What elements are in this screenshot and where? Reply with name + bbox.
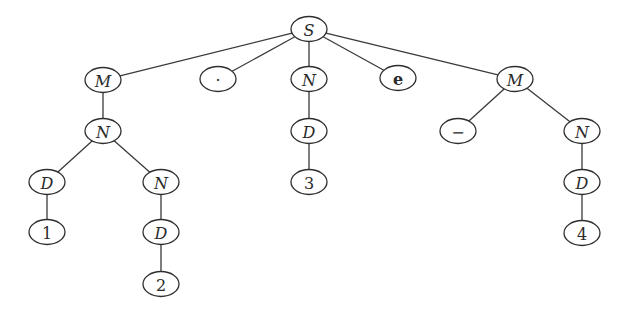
node-label: M <box>94 72 112 91</box>
tree-node-two: 2 <box>143 272 179 297</box>
node-label: N <box>153 174 169 193</box>
tree-node-N2: N <box>85 119 121 144</box>
node-label: D <box>154 224 168 243</box>
node-label: · <box>215 71 220 90</box>
tree-node-S: S <box>291 17 327 42</box>
tree-node-N4: N <box>143 170 179 195</box>
nodes-layer: SM·NeMND−NDN3D1D42 <box>29 17 600 297</box>
node-label: N <box>574 123 590 142</box>
node-label: e <box>393 70 403 89</box>
tree-node-N1: N <box>291 67 327 92</box>
tree-node-D3: D <box>564 170 600 195</box>
tree-node-D4: D <box>143 220 179 245</box>
node-label: D <box>575 174 589 193</box>
edge-S-e <box>323 37 384 70</box>
tree-node-M1: M <box>85 68 121 93</box>
node-label: 3 <box>304 174 314 193</box>
tree-node-N3: N <box>564 119 600 144</box>
tree-node-four: 4 <box>564 221 600 246</box>
node-label: 4 <box>577 225 587 244</box>
tree-diagram: SM·NeMND−NDN3D1D42 <box>0 0 628 320</box>
edge-S-M2 <box>326 33 498 75</box>
node-label: − <box>451 123 464 142</box>
tree-node-D1: D <box>291 119 327 144</box>
tree-node-minus: − <box>440 119 476 144</box>
edge-S-dot <box>232 37 295 71</box>
tree-node-D2: D <box>29 170 65 195</box>
tree-node-M2: M <box>497 67 533 92</box>
node-label: S <box>304 21 315 40</box>
node-label: N <box>95 123 111 142</box>
node-label: D <box>302 123 316 142</box>
node-label: N <box>301 71 317 90</box>
node-label: D <box>40 174 54 193</box>
edge-M2-N3 <box>527 88 570 121</box>
tree-node-one: 1 <box>29 220 65 245</box>
tree-node-e: e <box>380 66 416 91</box>
node-label: 1 <box>42 224 52 243</box>
edge-N2-D2 <box>58 141 92 172</box>
edge-N2-N4 <box>114 141 150 172</box>
tree-node-dot: · <box>200 67 236 92</box>
node-label: 2 <box>156 276 166 295</box>
tree-node-three: 3 <box>291 170 327 195</box>
node-label: M <box>506 71 524 90</box>
edge-M2-minus <box>469 89 504 121</box>
